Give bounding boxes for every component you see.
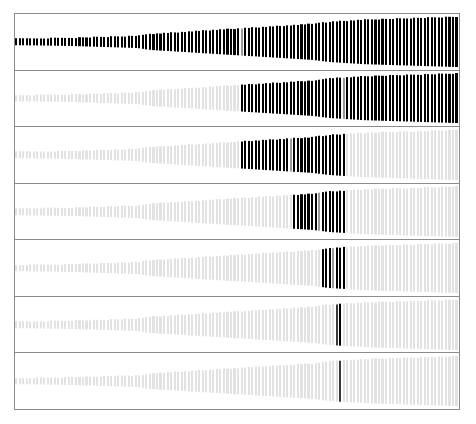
selected-bar	[22, 39, 24, 46]
selected-bar	[434, 74, 436, 123]
unselected-bar	[40, 151, 42, 158]
unselected-bar	[96, 263, 98, 273]
unselected-bar	[392, 358, 394, 404]
selected-bar	[191, 31, 193, 52]
unselected-bar	[448, 243, 450, 293]
unselected-bar	[332, 361, 334, 402]
unselected-bar	[272, 309, 274, 340]
unselected-bar	[343, 360, 345, 402]
unselected-bar	[149, 317, 151, 333]
unselected-bar	[43, 151, 45, 158]
unselected-bar	[427, 187, 429, 235]
unselected-bar	[167, 146, 169, 164]
unselected-bar	[381, 132, 383, 178]
unselected-bar	[163, 316, 165, 334]
unselected-bar	[353, 247, 355, 290]
unselected-bar	[300, 251, 302, 285]
unselected-bar	[57, 151, 59, 159]
unselected-bar	[269, 366, 271, 397]
unselected-bar	[385, 132, 387, 178]
unselected-bar	[448, 300, 450, 350]
selected-bar	[265, 27, 267, 57]
unselected-bar	[181, 89, 183, 109]
selected-bar	[47, 38, 49, 45]
selected-bar	[441, 17, 443, 66]
unselected-bar	[93, 377, 95, 386]
unselected-bar	[152, 317, 154, 333]
unselected-bar	[283, 195, 285, 227]
selected-bar	[265, 140, 267, 170]
unselected-bar	[103, 263, 105, 273]
selected-bar	[64, 38, 66, 46]
unselected-bar	[209, 313, 211, 336]
unselected-bar	[191, 88, 193, 109]
unselected-bar	[142, 374, 144, 388]
unselected-bar	[103, 93, 105, 103]
bar-group	[15, 71, 459, 127]
unselected-bar	[174, 202, 176, 221]
unselected-bar	[413, 188, 415, 235]
unselected-bar	[216, 256, 218, 280]
unselected-bar	[417, 188, 419, 236]
unselected-bar	[159, 373, 161, 390]
selected-bar	[117, 36, 119, 47]
unselected-bar	[265, 253, 267, 283]
unselected-bar	[406, 188, 408, 235]
unselected-bar	[357, 246, 359, 290]
selected-bar	[78, 38, 80, 46]
unselected-bar	[346, 247, 348, 289]
selected-bar	[357, 77, 359, 121]
selected-bar	[114, 36, 116, 47]
unselected-bar	[392, 302, 394, 348]
selected-bar	[124, 36, 126, 47]
unselected-bar	[350, 190, 352, 233]
unselected-bar	[325, 305, 327, 344]
selected-bar	[311, 24, 313, 60]
unselected-bar	[43, 378, 45, 385]
unselected-bar	[279, 365, 281, 397]
unselected-bar	[100, 94, 102, 104]
unselected-bar	[29, 208, 31, 215]
unselected-bar	[64, 321, 66, 329]
unselected-bar	[374, 132, 376, 177]
unselected-bar	[117, 263, 119, 274]
unselected-bar	[420, 301, 422, 349]
unselected-bar	[177, 372, 179, 391]
unselected-bar	[22, 152, 24, 159]
unselected-bar	[85, 207, 87, 216]
unselected-bar	[184, 145, 186, 165]
unselected-bar	[420, 244, 422, 292]
unselected-bar	[135, 319, 137, 331]
unselected-bar	[438, 244, 440, 293]
unselected-bar	[191, 314, 193, 335]
selected-bar	[332, 191, 334, 232]
selected-bar	[307, 24, 309, 59]
unselected-bar	[279, 252, 281, 284]
unselected-bar	[142, 205, 144, 219]
unselected-bar	[226, 142, 228, 167]
unselected-bar	[85, 377, 87, 386]
selected-bar	[417, 18, 419, 66]
unselected-bar	[378, 302, 380, 347]
unselected-bar	[131, 262, 133, 274]
unselected-bar	[145, 317, 147, 332]
unselected-bar	[413, 358, 415, 405]
unselected-bar	[279, 309, 281, 341]
unselected-bar	[177, 89, 179, 108]
selected-bar	[85, 37, 87, 46]
selected-bar	[286, 82, 288, 115]
selected-bar	[300, 81, 302, 115]
unselected-bar	[367, 246, 369, 291]
selected-bar	[325, 249, 327, 288]
unselected-bar	[364, 133, 366, 177]
selected-bar	[431, 18, 433, 67]
unselected-bar	[219, 312, 221, 336]
unselected-bar	[110, 319, 112, 329]
unselected-bar	[420, 357, 422, 405]
unselected-bar	[117, 319, 119, 330]
unselected-bar	[156, 147, 158, 164]
unselected-bar	[22, 265, 24, 272]
unselected-bar	[156, 316, 158, 333]
unselected-bar	[100, 263, 102, 273]
unselected-bar	[226, 255, 228, 280]
